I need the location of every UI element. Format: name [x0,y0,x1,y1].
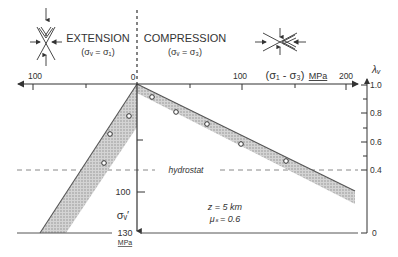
x-axis-ticks [33,84,346,90]
lambda-ticks [361,85,367,233]
lambda-tick-0: 0 [372,228,377,238]
x-tick-right-100: 100 [233,71,247,81]
compression-band [137,84,355,204]
compression-title: COMPRESSION [144,32,227,44]
depth-annotation: z = 5 km [207,202,243,212]
compression-fault-icon [255,28,306,55]
sigma-v-ticks [137,140,145,192]
sigma-v-label: σᵥ′ [117,209,129,221]
lambda-label: λᵥ [371,64,381,75]
lambda-tick-0-4: 0.4 [370,165,382,175]
sigma-unit: MPa [118,239,133,246]
extension-fault-icon [30,8,62,66]
extension-title: EXTENSION [66,32,130,44]
extension-condition: (σᵥ = σ₁) [81,47,114,57]
x-tick-left-100: 100 [28,71,42,81]
lambda-tick-1-0: 1.0 [370,80,382,90]
friction-annotation: μₛ = 0.6 [209,214,241,224]
sigma-tick-130: 130 [117,228,132,238]
stress-diagram: EXTENSION (σᵥ = σ₁) COMPRESSION (σᵥ = σ₃… [0,0,398,257]
lambda-tick-0-6: 0.6 [370,137,382,147]
x-tick-origin: 0 [131,72,136,82]
sigma-tick-100: 100 [115,187,130,197]
lambda-tick-0-8: 0.8 [370,108,382,118]
x-axis-label: (σ₁ - σ₃) [266,69,305,81]
x-tick-right-200: 200 [339,71,353,81]
compression-condition: (σᵥ = σ₃) [168,47,202,57]
x-axis-unit: MPa [309,71,328,81]
hydrostat-label: hydrostat [169,165,205,175]
